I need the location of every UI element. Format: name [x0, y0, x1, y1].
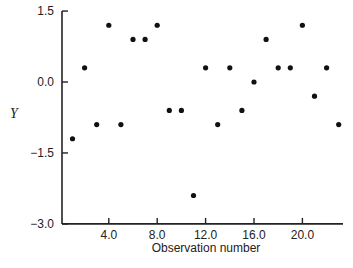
data-point	[130, 37, 135, 42]
x-tick-label: 12.0	[194, 228, 218, 242]
data-point	[118, 122, 123, 127]
data-point	[312, 94, 317, 99]
data-point	[179, 108, 184, 113]
data-point	[106, 23, 111, 28]
data-point	[251, 79, 256, 84]
data-point	[167, 108, 172, 113]
data-point	[276, 65, 281, 70]
x-tick-label: 20.0	[291, 228, 315, 242]
y-tick-label: −3.0	[30, 217, 54, 231]
data-point	[215, 122, 220, 127]
y-tick-label: 1.5	[37, 4, 54, 18]
data-point	[203, 65, 208, 70]
data-point	[143, 37, 148, 42]
data-points	[70, 23, 341, 198]
data-point	[300, 23, 305, 28]
data-point	[82, 65, 87, 70]
data-point	[336, 122, 341, 127]
y-tick-label: 0.0	[37, 75, 54, 89]
data-point	[239, 108, 244, 113]
data-point	[227, 65, 232, 70]
x-axis-title: Observation number	[152, 241, 261, 255]
data-point	[191, 193, 196, 198]
y-axis-title: Y	[10, 106, 20, 121]
data-point	[288, 65, 293, 70]
data-point	[264, 37, 269, 42]
x-tick-label: 8.0	[149, 228, 166, 242]
x-axis-ticks: 4.08.012.016.020.0	[100, 218, 314, 242]
axes	[62, 11, 343, 224]
data-point	[155, 23, 160, 28]
x-tick-label: 16.0	[242, 228, 266, 242]
scatter-chart: 1.50.0−1.5−3.0 4.08.012.016.020.0 Y Obse…	[0, 0, 353, 268]
data-point	[324, 65, 329, 70]
y-tick-label: −1.5	[30, 146, 54, 160]
data-point	[94, 122, 99, 127]
data-point	[70, 136, 75, 141]
x-tick-label: 4.0	[100, 228, 117, 242]
